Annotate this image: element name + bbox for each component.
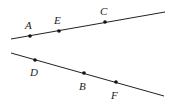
point-e bbox=[57, 29, 61, 33]
point-c bbox=[103, 20, 107, 24]
point-label-a: A bbox=[24, 19, 32, 31]
geometry-diagram: AECDBF bbox=[0, 0, 177, 105]
point-a bbox=[28, 34, 32, 38]
point-label-b: B bbox=[79, 80, 86, 92]
point-label-c: C bbox=[100, 5, 108, 17]
point-f bbox=[114, 80, 118, 84]
point-d bbox=[33, 58, 37, 62]
point-label-f: F bbox=[110, 89, 118, 101]
upper-line bbox=[11, 12, 165, 39]
point-label-e: E bbox=[53, 14, 61, 26]
point-label-d: D bbox=[29, 66, 38, 78]
point-b bbox=[82, 71, 86, 75]
